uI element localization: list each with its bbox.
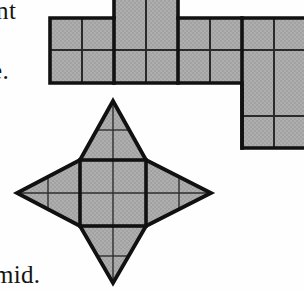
text-fragment-top-left: nt <box>0 0 16 23</box>
polyomino-cell <box>82 18 114 50</box>
text-fragment-bottom-left: mid. <box>0 262 40 287</box>
polyomino-cell <box>114 50 146 83</box>
polyomino-cell <box>242 116 274 148</box>
polyomino-cell <box>242 83 274 116</box>
polyomino-cell <box>178 50 210 83</box>
polyomino-cell <box>146 18 178 50</box>
polyomino-cell <box>274 18 304 50</box>
polyomino-cell <box>242 50 274 83</box>
polyomino-cell <box>82 50 114 83</box>
polyomino-cell <box>50 18 82 50</box>
figure-canvas <box>0 0 304 290</box>
polyomino-cell <box>242 18 274 50</box>
figure-page: nt e. mid. <box>0 0 304 290</box>
four-pointed-star-net <box>17 101 211 283</box>
polyomino-cell <box>50 50 82 83</box>
text-fragment-middle-left: e. <box>0 58 9 83</box>
polyomino-cell <box>114 0 146 18</box>
polyomino-net <box>50 0 304 148</box>
polyomino-cell <box>274 116 304 148</box>
polyomino-cell <box>210 50 242 83</box>
polyomino-cell <box>114 18 146 50</box>
polyomino-cell <box>274 83 304 116</box>
polyomino-cell <box>146 0 178 18</box>
polyomino-cell <box>274 50 304 83</box>
polyomino-cell <box>178 18 210 50</box>
polyomino-cell <box>146 50 178 83</box>
polyomino-cell <box>210 18 242 50</box>
